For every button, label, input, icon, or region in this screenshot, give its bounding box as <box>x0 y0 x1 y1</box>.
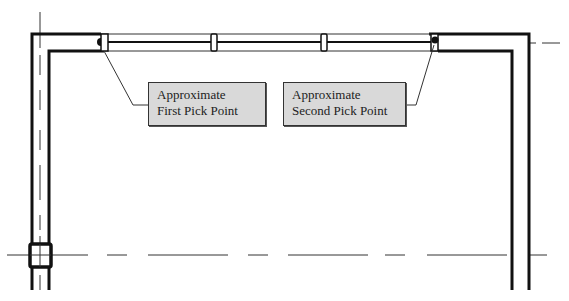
second-pick-point-marker <box>432 37 439 44</box>
second-pick-point-callout: Approximate Second Pick Point <box>283 82 406 126</box>
first-pick-point-marker <box>97 38 101 46</box>
floor-plan-diagram: Approximate First Pick Point Approximate… <box>0 0 569 301</box>
first-callout-leader <box>104 51 148 105</box>
second-callout-line1: Approximate <box>292 87 397 103</box>
second-callout-line2: Second Pick Point <box>292 103 397 119</box>
window <box>101 34 438 51</box>
second-callout-leader <box>406 45 434 105</box>
first-callout-line1: Approximate <box>157 87 257 103</box>
first-callout-line2: First Pick Point <box>157 103 257 119</box>
outer-wall-line <box>32 34 529 290</box>
inner-wall-line <box>49 51 512 290</box>
first-pick-point-callout: Approximate First Pick Point <box>148 82 266 126</box>
floor-plan-drawing <box>0 0 569 301</box>
